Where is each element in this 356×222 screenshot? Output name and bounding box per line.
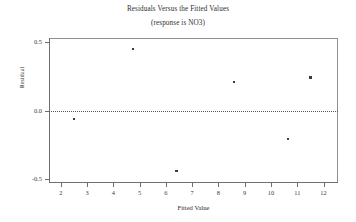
x-tick-mark [245,183,246,187]
y-tick-label: -0.5 [19,175,42,183]
plot-area: 23456789101112 0.50.0-0.5 [49,38,338,183]
x-tick-mark [61,183,62,187]
x-tick-label: 3 [77,189,97,197]
y-tick-label: 0.5 [19,38,42,46]
x-tick-label: 8 [208,189,228,197]
data-point [287,138,289,140]
x-tick-label: 12 [314,189,334,197]
x-tick-mark [324,183,325,187]
x-tick-label: 2 [51,189,71,197]
chart-title: Residuals Versus the Fitted Values [0,4,356,15]
x-tick-mark [218,183,219,187]
x-tick-mark [271,183,272,187]
y-tick-mark [45,111,49,112]
data-point [233,81,235,83]
x-tick-label: 11 [287,189,307,197]
x-tick-label: 5 [130,189,150,197]
x-tick-mark [113,183,114,187]
data-point [175,170,177,172]
x-tick-mark [192,183,193,187]
chart-subtitle: (response is NO3) [0,18,356,29]
x-tick-label: 4 [103,189,123,197]
x-tick-label: 9 [235,189,255,197]
data-point [73,118,75,120]
x-axis-label: Fitted Value [49,203,338,212]
x-tick-label: 10 [261,189,281,197]
y-tick-mark [45,179,49,180]
x-tick-mark [166,183,167,187]
plot-frame-top [49,38,338,39]
y-tick-label: 0.0 [19,107,42,115]
x-tick-label: 6 [156,189,176,197]
x-tick-mark [297,183,298,187]
zero-reference-line [49,111,338,112]
chart-title-block: Residuals Versus the Fitted Values (resp… [0,4,356,29]
y-tick-mark [45,42,49,43]
x-tick-mark [87,183,88,187]
data-point [132,48,134,50]
residual-scatter-chart: Residuals Versus the Fitted Values (resp… [0,0,356,222]
x-tick-label: 7 [182,189,202,197]
data-point [309,76,311,78]
x-axis-line [49,182,338,183]
y-axis-label: Residual [18,67,26,88]
x-tick-mark [140,183,141,187]
